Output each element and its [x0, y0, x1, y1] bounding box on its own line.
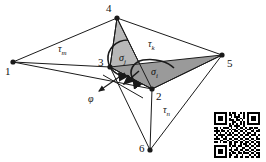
rotation-label-sigma-j: σj: [119, 53, 126, 66]
node-5: [219, 52, 224, 57]
node-2: [149, 86, 154, 91]
node-label-2: 2: [156, 91, 162, 102]
node-label-6: 6: [139, 143, 145, 154]
node-label-1: 1: [5, 66, 11, 77]
edge-label-tau-n: τn: [163, 105, 170, 118]
shaded-faces: [110, 18, 222, 89]
rotation-label-sigma-i: σi: [151, 67, 158, 80]
mesh-figure: 123456τmτkτnσjσiφ: [0, 0, 266, 162]
edge-label-tau-k: τk: [148, 39, 155, 52]
node-6: [147, 147, 152, 152]
node-label-5: 5: [227, 58, 233, 69]
edge-label-tau-m: τm: [58, 44, 67, 57]
qr-code: [214, 112, 260, 158]
edge-2-6: [150, 89, 152, 150]
node-1: [10, 59, 15, 64]
vector-label-phi: φ: [88, 94, 94, 104]
node-label-3: 3: [98, 57, 104, 68]
phi-vector-arrow: [99, 73, 125, 91]
node-4: [114, 15, 119, 20]
node-label-4: 4: [106, 3, 112, 14]
